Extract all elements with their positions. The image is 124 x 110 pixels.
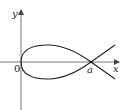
origin-label: 0 [14, 63, 20, 74]
x-axis-label: x [113, 63, 119, 74]
curve-diagram: y x 0 a [0, 0, 124, 110]
curve-lower [21, 62, 115, 79]
y-axis-label: y [11, 8, 18, 19]
node-point [90, 61, 93, 64]
curve-upper [21, 45, 115, 62]
node-label-a: a [87, 64, 93, 75]
